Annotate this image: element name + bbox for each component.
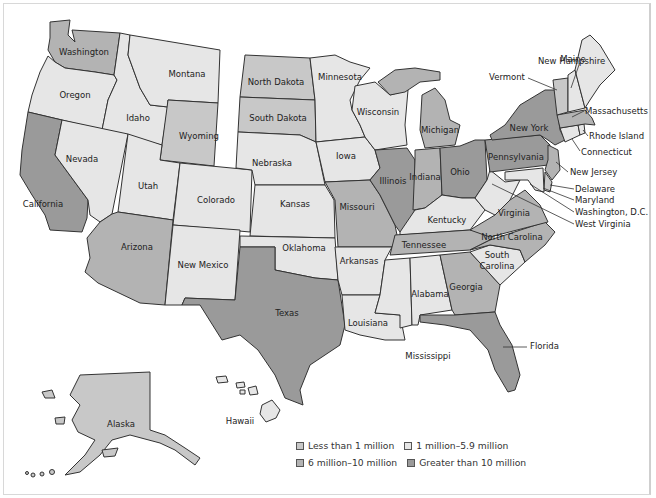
legend-swatch-icon <box>296 442 304 450</box>
label-virginia: Virginia <box>498 208 530 218</box>
legend-swatch-icon <box>404 442 412 450</box>
label-south-carolina-1: South <box>485 250 510 260</box>
label-indiana: Indiana <box>409 172 440 182</box>
label-colorado: Colorado <box>197 195 235 205</box>
label-wyoming: Wyoming <box>179 131 219 141</box>
label-new-mexico: New Mexico <box>178 260 229 270</box>
legend-item-6to10: 6 million–10 million <box>296 457 397 468</box>
legend-label: 6 million–10 million <box>308 457 397 468</box>
label-iowa: Iowa <box>336 151 356 161</box>
label-ohio: Ohio <box>450 167 470 177</box>
label-maryland: Maryland <box>575 195 614 205</box>
label-utah: Utah <box>138 181 158 191</box>
legend-item-1to5: 1 million–5.9 million <box>404 440 508 451</box>
label-nebraska: Nebraska <box>252 158 292 168</box>
legend-item-gt10: Greater than 10 million <box>407 457 526 468</box>
label-oklahoma: Oklahoma <box>282 243 325 253</box>
label-south-carolina-2: Carolina <box>480 261 515 271</box>
label-arkansas: Arkansas <box>340 256 379 266</box>
label-delaware: Delaware <box>575 184 615 194</box>
legend-label: Greater than 10 million <box>419 457 526 468</box>
label-illinois: Illinois <box>380 176 408 186</box>
state-hawaii[interactable] <box>260 400 280 422</box>
label-south-dakota: South Dakota <box>249 113 307 123</box>
label-florida: Florida <box>530 341 559 351</box>
leader-delaware <box>550 185 574 189</box>
label-georgia: Georgia <box>449 282 482 292</box>
label-kentucky: Kentucky <box>428 215 467 225</box>
hawaii-island-1 <box>216 376 228 383</box>
alaska-island-3 <box>102 448 118 457</box>
label-tennessee: Tennessee <box>401 240 446 250</box>
legend: Less than 1 million 1 million–5.9 millio… <box>296 437 536 471</box>
label-north-carolina: North Carolina <box>481 232 542 242</box>
label-new-hampshire: New Hampshire <box>538 56 605 66</box>
label-hawaii: Hawaii <box>226 416 254 426</box>
label-washington: Washington <box>59 47 109 57</box>
label-pennsylvania: Pennsylvania <box>488 152 544 162</box>
label-north-dakota: North Dakota <box>248 77 305 87</box>
alaska-island-4 <box>26 472 29 475</box>
legend-label: 1 million–5.9 million <box>416 440 508 451</box>
legend-swatch-icon <box>296 459 304 467</box>
label-nevada: Nevada <box>66 154 98 164</box>
legend-swatch-icon <box>407 459 415 467</box>
label-montana: Montana <box>168 69 205 79</box>
legend-item-lt1: Less than 1 million <box>296 440 394 451</box>
label-mississippi: Mississippi <box>405 351 450 361</box>
label-alabama: Alabama <box>411 289 448 299</box>
state-michigan[interactable] <box>420 88 460 148</box>
legend-label: Less than 1 million <box>308 440 394 451</box>
state-arizona[interactable] <box>85 212 173 305</box>
label-oregon: Oregon <box>59 90 90 100</box>
label-new-jersey: New Jersey <box>570 167 617 177</box>
label-dc: Washington, D.C. <box>575 207 648 217</box>
label-texas: Texas <box>274 308 299 318</box>
label-connecticut: Connecticut <box>581 147 633 157</box>
alaska-island-2 <box>55 417 65 424</box>
label-vermont: Vermont <box>489 72 526 82</box>
label-california: California <box>23 199 63 209</box>
alaska-island-1 <box>42 390 55 398</box>
us-map: Washington Oregon California Idaho Nevad… <box>0 0 656 498</box>
alaska-island-5 <box>31 473 35 477</box>
hawaii-island-3 <box>248 386 258 395</box>
state-new-york[interactable] <box>490 90 565 145</box>
label-rhode-island: Rhode Island <box>589 131 644 141</box>
hawaii-island-4 <box>240 390 245 394</box>
leader-maryland <box>543 188 574 200</box>
label-minnesota: Minnesota <box>318 72 362 82</box>
label-alaska: Alaska <box>107 419 135 429</box>
label-missouri: Missouri <box>340 202 375 212</box>
label-wisconsin: Wisconsin <box>357 107 399 117</box>
label-idaho: Idaho <box>126 113 150 123</box>
alaska-island-7 <box>50 470 55 475</box>
label-louisiana: Louisiana <box>348 318 388 328</box>
label-kansas: Kansas <box>280 199 311 209</box>
hawaii-island-2 <box>236 382 245 388</box>
label-new-york: New York <box>510 123 549 133</box>
label-massachusetts: Massachusetts <box>585 106 648 116</box>
state-kansas[interactable] <box>250 185 335 238</box>
label-west-virginia: West Virginia <box>575 219 631 229</box>
label-michigan: Michigan <box>421 125 459 135</box>
leader-connecticut <box>572 139 580 151</box>
label-arizona: Arizona <box>121 242 153 252</box>
alaska-island-6 <box>40 472 44 476</box>
